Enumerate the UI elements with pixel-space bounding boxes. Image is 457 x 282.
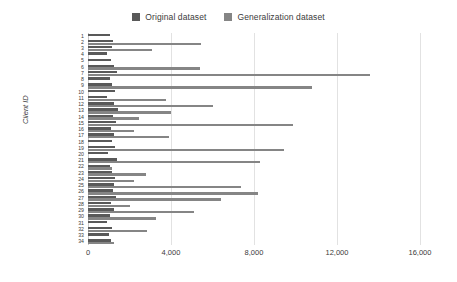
bar [88, 136, 169, 138]
y-tick-label: 31 [78, 221, 84, 226]
y-tick-label: 17 [78, 133, 84, 138]
bar [88, 230, 147, 232]
y-tick-label: 30 [78, 214, 84, 219]
legend-item-generalization: Generalization dataset [224, 12, 324, 22]
bar [88, 149, 284, 151]
gridline-16000 [420, 33, 421, 245]
bar [88, 111, 171, 113]
y-tick-label: 13 [78, 108, 84, 113]
y-axis-tick-labels: 1234567891011121314151617181920212223242… [62, 33, 86, 245]
legend-label-original: Original dataset [145, 12, 206, 22]
bar [88, 198, 221, 200]
bar [88, 90, 115, 92]
bar [88, 52, 107, 54]
bar-chart: Original dataset Generalization dataset … [0, 0, 457, 282]
x-tick-label: 16,000 [409, 248, 432, 257]
bar [88, 180, 134, 182]
bar [88, 105, 213, 107]
bar [88, 205, 130, 207]
x-tick-label: 8,000 [245, 248, 264, 257]
plot-area [88, 33, 420, 245]
bar [88, 43, 201, 45]
bar [88, 233, 109, 235]
x-axis-tick-labels: 04,0008,00012,00016,000 [88, 248, 420, 262]
bar [88, 152, 108, 154]
bar [88, 49, 152, 51]
bar [88, 242, 114, 244]
y-tick-label: 22 [78, 164, 84, 169]
bar [88, 192, 258, 194]
legend-swatch-generalization [224, 13, 232, 21]
bar [88, 173, 146, 175]
bar [88, 77, 110, 79]
y-tick-label: 5 [81, 58, 84, 63]
chart-legend: Original dataset Generalization dataset [0, 12, 457, 22]
bar [88, 221, 107, 223]
bar [88, 34, 110, 36]
x-tick-label: 0 [86, 248, 90, 257]
legend-label-generalization: Generalization dataset [237, 12, 324, 22]
bar [88, 186, 241, 188]
y-tick-label: 1 [81, 34, 84, 39]
bar [88, 59, 111, 61]
bar [88, 99, 166, 101]
legend-swatch-original [132, 13, 140, 21]
bar [88, 67, 200, 69]
y-tick-label: 26 [78, 189, 84, 194]
bar [88, 140, 112, 142]
y-tick-label: 34 [78, 239, 84, 244]
legend-item-original: Original dataset [132, 12, 206, 22]
bar [88, 130, 134, 132]
y-tick-label: 18 [78, 140, 84, 145]
x-tick-label: 4,000 [162, 248, 181, 257]
y-axis-title: Client ID [21, 95, 30, 124]
bar [88, 74, 370, 76]
bar [88, 217, 156, 219]
bar [88, 211, 194, 213]
y-tick-label: 9 [81, 83, 84, 88]
bar [88, 124, 293, 126]
bar [88, 167, 112, 169]
y-tick-label: 14 [78, 115, 84, 120]
bar [88, 86, 312, 88]
x-tick-label: 12,000 [326, 248, 349, 257]
bar [88, 117, 139, 119]
bar-series-layer [88, 33, 420, 245]
bar [88, 161, 260, 163]
